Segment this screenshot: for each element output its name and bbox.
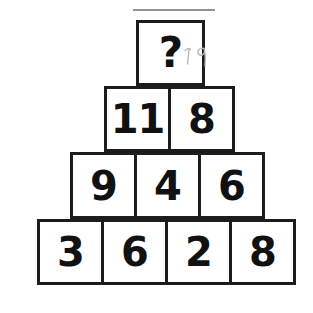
pyramid-row-4: 3 6 2 8 <box>37 219 296 285</box>
cell-value: 3 <box>57 232 84 272</box>
cell-value: 6 <box>121 232 148 272</box>
cell-value: 8 <box>188 99 215 139</box>
number-pyramid: ? 11 8 9 4 6 3 <box>0 0 313 313</box>
pyramid-cell-r3c3[interactable]: 6 <box>198 152 265 219</box>
pyramid-row-1: ? <box>136 20 205 86</box>
pyramid-row-2: 11 8 <box>104 86 235 152</box>
cell-value: 11 <box>111 99 165 139</box>
pyramid-cell-r4c4[interactable]: 8 <box>229 219 296 285</box>
cell-value: ? <box>159 32 182 74</box>
pyramid-cell-r3c1[interactable]: 9 <box>70 152 137 219</box>
cell-value: 4 <box>154 166 181 206</box>
cell-value: 6 <box>218 166 245 206</box>
pyramid-cell-r3c2[interactable]: 4 <box>134 152 201 219</box>
pyramid-cell-r4c2[interactable]: 6 <box>101 219 168 285</box>
puzzle-canvas: ? 11 8 9 4 6 3 <box>0 0 313 313</box>
cell-value: 9 <box>90 166 117 206</box>
pyramid-cell-r2c1[interactable]: 11 <box>104 86 171 152</box>
cell-value: 2 <box>185 232 212 272</box>
cell-value: 8 <box>249 232 276 272</box>
pyramid-row-3: 9 4 6 <box>70 152 265 219</box>
pyramid-cell-r4c1[interactable]: 3 <box>37 219 104 285</box>
pyramid-cell-r4c3[interactable]: 2 <box>165 219 232 285</box>
pyramid-cell-r1c1[interactable]: ? <box>136 20 205 86</box>
pyramid-cell-r2c2[interactable]: 8 <box>168 86 235 152</box>
